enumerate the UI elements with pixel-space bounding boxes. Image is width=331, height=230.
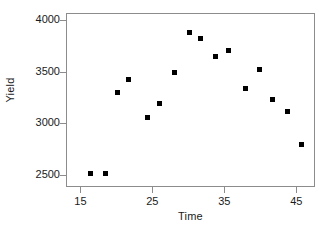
y-axis-tick-label: 3500 [26,66,60,77]
y-axis-tick-label: 4000 [26,14,60,25]
data-point [157,101,162,106]
data-point [172,70,177,75]
data-point [213,54,218,59]
x-axis-title: Time [66,210,315,222]
data-point [187,30,192,35]
y-axis-tick-label: 3000 [26,117,60,128]
x-axis-tick-label: 25 [132,195,172,207]
x-axis-tick [296,187,297,193]
data-point [198,36,203,41]
y-axis-tick-label: 2500 [26,169,60,180]
x-axis-tick [80,187,81,193]
data-point [243,86,248,91]
data-point [145,115,150,120]
data-point [88,171,93,176]
y-axis-title: Yield [4,66,16,114]
data-point [115,90,120,95]
data-point [103,171,108,176]
data-point [270,97,275,102]
data-point [226,48,231,53]
x-axis-tick [152,187,153,193]
x-axis-tick-label: 45 [276,195,316,207]
data-point [299,142,304,147]
x-axis-tick-label: 15 [60,195,100,207]
data-point [285,109,290,114]
data-point [257,67,262,72]
x-axis-tick-label: 35 [204,195,244,207]
plot-area [66,13,315,187]
scatter-plot-figure: 2500300035004000 Yield 15253545 Time [0,0,331,230]
data-points-layer [67,14,314,186]
data-point [126,77,131,82]
x-axis-tick [224,187,225,193]
